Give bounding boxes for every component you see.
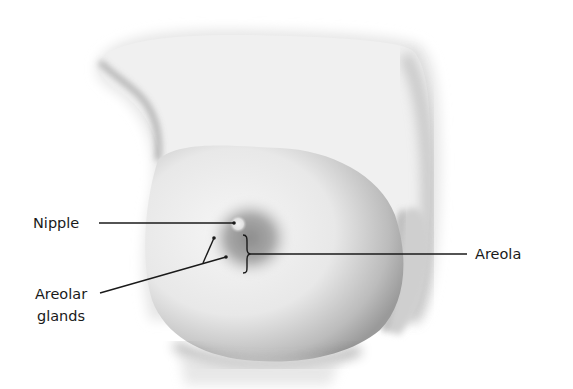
label-areola: Areola bbox=[475, 245, 521, 263]
areola-illustration bbox=[208, 198, 292, 278]
breast-anatomy-diagram bbox=[0, 0, 573, 389]
areolar-gland-dot-2 bbox=[224, 255, 228, 259]
nipple-illustration bbox=[229, 215, 247, 233]
areolar-gland-dot-1 bbox=[212, 236, 216, 240]
label-nipple: Nipple bbox=[33, 214, 79, 232]
breast-illustration bbox=[145, 146, 403, 385]
nipple-leader-dot bbox=[232, 221, 236, 225]
label-areolar-glands: Areolar glands bbox=[26, 283, 96, 327]
